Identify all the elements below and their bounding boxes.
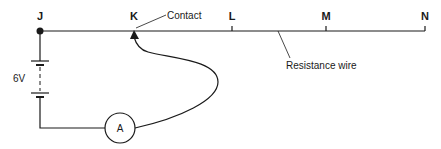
resistance-wire-leader bbox=[278, 31, 290, 58]
flying-lead bbox=[134, 37, 218, 128]
contact-leader bbox=[136, 15, 166, 28]
resistance-wire-label: Resistance wire bbox=[286, 60, 357, 71]
label-l: L bbox=[229, 10, 236, 22]
battery-voltage-label: 6V bbox=[13, 73, 26, 84]
label-k: K bbox=[130, 10, 138, 22]
circuit-diagram: J K L M N Contact Resistance wire 6V A bbox=[0, 0, 441, 149]
ammeter-label: A bbox=[117, 123, 124, 134]
label-m: M bbox=[321, 10, 330, 22]
label-j: J bbox=[37, 10, 43, 22]
contact-label: Contact bbox=[167, 10, 202, 21]
label-n: N bbox=[421, 10, 429, 22]
wire-battery-ammeter bbox=[40, 97, 105, 128]
